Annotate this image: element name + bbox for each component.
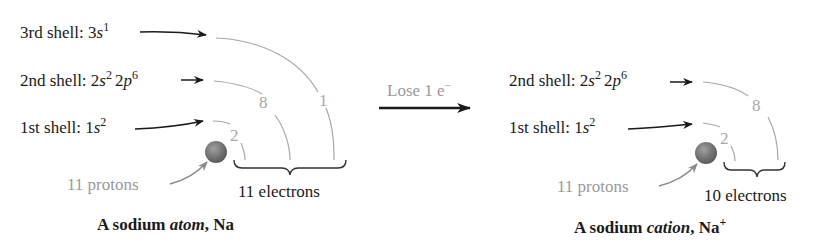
- atom-electrons-brace: [234, 160, 346, 175]
- cation-protons-pointer-arrow: [659, 164, 697, 186]
- cation-electrons-label: 10 electrons: [704, 186, 787, 205]
- process-arrow-group: Lose 1 e−: [379, 79, 470, 108]
- sodium-cation-panel: 2nd shell: 2s22p6 1st shell: 1s2 8 2 11 …: [509, 68, 787, 237]
- atom-protons-label: 11 protons: [67, 175, 139, 194]
- cation-shell-1-count: 2: [720, 129, 729, 148]
- atom-protons-pointer-arrow: [170, 162, 207, 184]
- cation-shell-1-label: 1st shell: 1s2: [509, 115, 595, 137]
- cation-shell-1-pointer-arrow: [628, 124, 692, 129]
- atom-shell-1-pointer-arrow: [135, 121, 203, 129]
- atom-shell-1-arc: [213, 121, 230, 124]
- atom-shell-3-pointer-arrow: [140, 32, 206, 35]
- atom-shell-1-label: 1st shell: 1s2: [20, 115, 106, 137]
- atom-shell-3-label: 3rd shell: 3s1: [20, 20, 109, 42]
- atom-nucleus: [205, 141, 227, 163]
- cation-nucleus: [695, 142, 717, 164]
- atom-electrons-label: 11 electrons: [238, 182, 320, 201]
- atom-shell-1-arc-lower: [241, 143, 245, 160]
- atom-shell-3-arc-lower: [326, 108, 334, 160]
- cation-shell-1-arc: [703, 123, 720, 127]
- cation-shell-2-arc-lower: [768, 117, 778, 160]
- atom-shell-3-count: 1: [319, 91, 328, 110]
- atom-shell-2-arc-lower: [275, 115, 290, 160]
- sodium-atom-panel: 3rd shell: 3s1 2nd shell: 2s22p6 1st she…: [20, 20, 346, 234]
- cation-electrons-brace: [724, 162, 785, 177]
- atom-shell-1-count: 2: [230, 126, 239, 145]
- atom-shell-2-label: 2nd shell: 2s22p6: [20, 68, 138, 90]
- cation-shell-1-arc-lower: [731, 146, 735, 161]
- atom-shell-2-arc: [214, 81, 262, 94]
- cation-shell-2-label: 2nd shell: 2s22p6: [509, 68, 627, 90]
- atom-shell-2-count: 8: [259, 93, 268, 112]
- cation-caption: A sodium cation, Na+: [574, 215, 726, 237]
- cation-shell-2-arc: [703, 82, 748, 96]
- cation-shell-2-count: 8: [752, 96, 761, 115]
- sodium-ionization-diagram: 3rd shell: 3s1 2nd shell: 2s22p6 1st she…: [0, 0, 828, 246]
- process-label: Lose 1 e−: [387, 79, 451, 100]
- cation-protons-label: 11 protons: [557, 177, 629, 196]
- atom-caption: A sodium atom, Na: [97, 215, 234, 234]
